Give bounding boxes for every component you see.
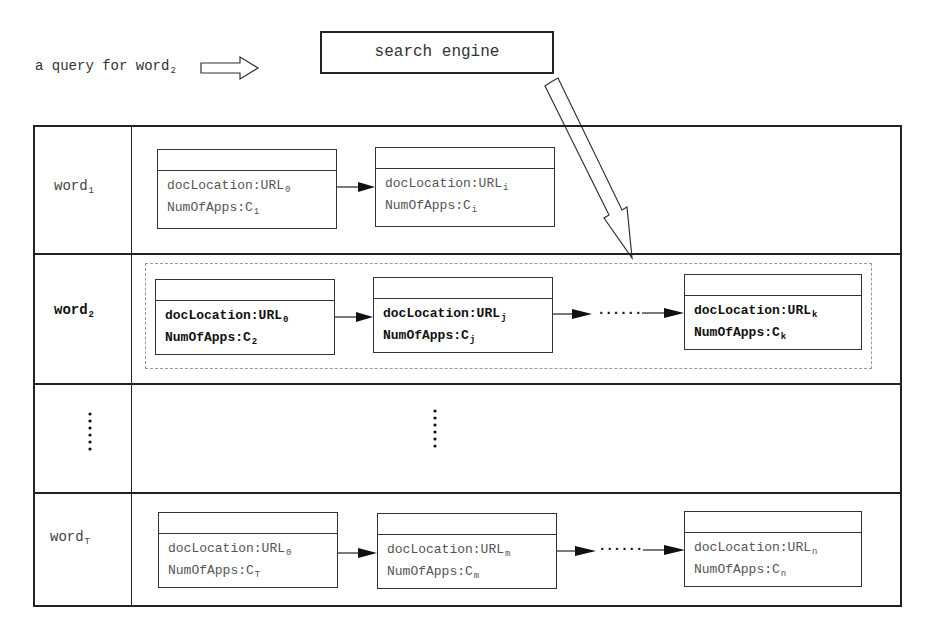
doc-location: docLocation:URL0	[168, 540, 328, 562]
num-of-apps: NumOfApps:CT	[168, 562, 328, 584]
num-of-apps-subscript: T	[255, 570, 260, 580]
num-of-apps: NumOfApps:Cn	[694, 561, 852, 583]
doc-location-text: docLocation:URL	[694, 540, 811, 555]
doc-location-subscript: n	[812, 547, 817, 557]
posting-node: docLocation:URL0 NumOfApps:CT	[158, 512, 338, 588]
ellipsis-horizontal: ......	[598, 538, 642, 554]
num-of-apps-subscript: n	[781, 569, 786, 579]
node-header	[685, 512, 861, 533]
num-of-apps-text: NumOfApps:C	[694, 562, 780, 577]
num-of-apps-text: NumOfApps:C	[387, 564, 473, 579]
posting-node: docLocation:URLn NumOfApps:Cn	[684, 511, 862, 587]
doc-location-subscript: m	[505, 549, 510, 559]
word-label-T: wordT	[50, 529, 90, 547]
node-header	[378, 514, 556, 535]
doc-location-subscript: 0	[286, 548, 291, 558]
word-subscript: T	[85, 537, 90, 547]
doc-location-text: docLocation:URL	[387, 542, 504, 557]
doc-location: docLocation:URLn	[694, 539, 852, 561]
num-of-apps: NumOfApps:Cm	[387, 563, 547, 585]
doc-location-text: docLocation:URL	[168, 541, 285, 556]
vertical-ellipsis-icon	[433, 409, 436, 447]
vertical-ellipsis-icon	[88, 412, 91, 450]
num-of-apps-subscript: m	[474, 571, 479, 581]
num-of-apps-text: NumOfApps:C	[168, 563, 254, 578]
posting-node: docLocation:URLm NumOfApps:Cm	[377, 513, 557, 589]
doc-location: docLocation:URLm	[387, 541, 547, 563]
word-text: word	[50, 529, 84, 545]
node-header	[159, 513, 337, 534]
